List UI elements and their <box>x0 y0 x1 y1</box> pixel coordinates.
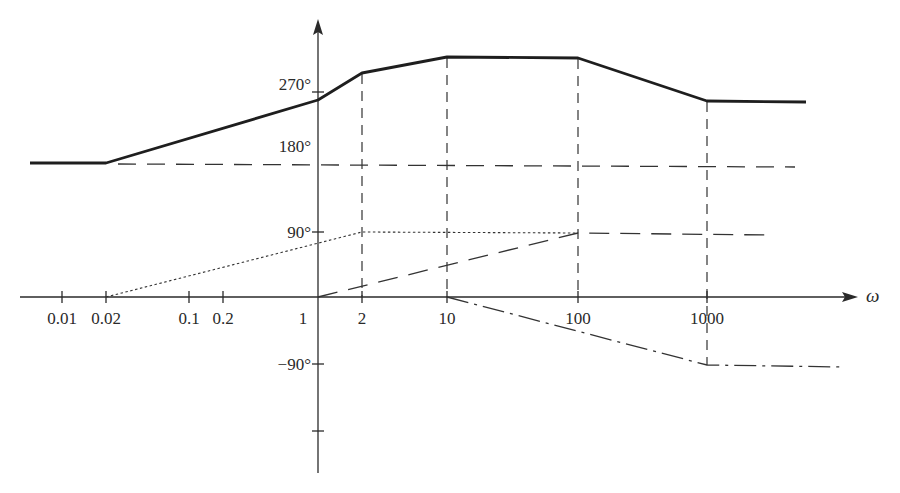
x-tick-label: 0.01 <box>47 309 77 328</box>
x-axis-label: ω <box>866 285 879 306</box>
series-dotted <box>106 232 578 297</box>
x-tick-label: 2 <box>358 309 367 328</box>
y-tick-label: −90° <box>278 355 311 374</box>
x-tick-labels: 0.01 0.02 0.1 0.2 1 2 10 100 1000 <box>47 309 724 328</box>
x-tick-label: 0.2 <box>212 309 233 328</box>
y-tick-label: 90° <box>287 223 311 242</box>
x-tick-label: 0.02 <box>91 309 121 328</box>
series-total-phase <box>30 57 806 163</box>
x-tick-label: 1 <box>299 309 308 328</box>
y-tick-labels: 270° 180° 90° −90° <box>278 75 311 374</box>
y-tick-label: 270° <box>279 75 311 94</box>
guide-lines <box>362 58 707 365</box>
x-tick-label: 0.1 <box>178 309 199 328</box>
x-tick-label: 100 <box>565 309 591 328</box>
axes <box>20 19 858 473</box>
series-constant-180 <box>118 164 795 167</box>
series-long-dash <box>318 233 768 297</box>
series-dash-dot <box>447 297 845 367</box>
x-tick-label: 10 <box>439 309 456 328</box>
phase-bode-plot: 0.01 0.02 0.1 0.2 1 2 10 100 1000 270° 1… <box>0 0 900 493</box>
y-tick-label: 180° <box>279 137 311 156</box>
